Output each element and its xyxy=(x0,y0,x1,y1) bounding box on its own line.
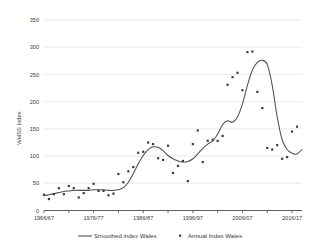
x-axis-tick-label: 2006/07 xyxy=(232,215,252,221)
data-point-marker xyxy=(286,156,288,158)
data-point-marker xyxy=(147,141,149,143)
data-point-marker xyxy=(167,145,169,147)
data-point-marker xyxy=(192,143,194,145)
data-point-marker xyxy=(256,91,258,93)
y-axis-tick-label: 150 xyxy=(30,126,39,132)
data-point-marker xyxy=(142,151,144,153)
data-point-marker xyxy=(48,198,50,200)
data-point-marker xyxy=(222,135,224,137)
x-axis-tick-label: 2016/17 xyxy=(282,215,302,221)
line-chart: 050100150200250300350 WelSS Index 1966/6… xyxy=(0,0,312,249)
data-point-marker xyxy=(296,126,298,128)
x-axis-tick-label: 1976/77 xyxy=(83,215,103,221)
data-point-marker xyxy=(78,196,80,198)
data-point-marker xyxy=(241,89,243,91)
legend-dot-swatch xyxy=(179,235,181,237)
data-point-marker xyxy=(281,158,283,160)
data-point-marker xyxy=(112,193,114,195)
data-point-marker xyxy=(182,160,184,162)
data-point-marker xyxy=(246,51,248,53)
data-point-marker xyxy=(172,172,174,174)
data-point-marker xyxy=(132,166,134,168)
data-point-marker xyxy=(187,180,189,182)
x-axis-tick-label: 1966/67 xyxy=(34,215,54,221)
data-point-marker xyxy=(117,173,119,175)
data-point-marker xyxy=(127,170,129,172)
data-point-marker xyxy=(207,140,209,142)
y-axis-tick-label: 0 xyxy=(36,208,39,214)
data-point-marker xyxy=(102,190,104,192)
data-point-marker xyxy=(276,144,278,146)
data-point-marker xyxy=(202,161,204,163)
y-axis-tick-label: 250 xyxy=(30,72,39,78)
data-point-marker xyxy=(212,139,214,141)
data-point-marker xyxy=(58,187,60,189)
y-axis-tick-label: 50 xyxy=(33,180,39,186)
data-point-marker xyxy=(261,107,263,109)
x-axis-tick-label: 1986/87 xyxy=(133,215,153,221)
data-point-marker xyxy=(88,187,90,189)
chart-container: 050100150200250300350 WelSS Index 1966/6… xyxy=(0,0,312,249)
data-point-marker xyxy=(226,84,228,86)
data-point-marker xyxy=(251,50,253,52)
legend-label-smoothed-index-wales: Smoothed index Wales xyxy=(94,232,156,239)
data-point-marker xyxy=(271,148,273,150)
data-point-marker xyxy=(107,194,109,196)
data-point-marker xyxy=(217,140,219,142)
data-point-marker xyxy=(236,72,238,74)
data-point-marker xyxy=(122,181,124,183)
data-point-marker xyxy=(97,190,99,192)
chart-background xyxy=(0,0,312,249)
data-point-marker xyxy=(83,192,85,194)
legend-label-annual-index-wales: Annual Index Wales xyxy=(188,232,242,239)
y-axis-tick-label: 300 xyxy=(30,44,39,50)
data-point-marker xyxy=(73,187,75,189)
y-axis-tick-label: 350 xyxy=(30,17,39,23)
data-point-marker xyxy=(152,143,154,145)
data-point-marker xyxy=(157,157,159,159)
data-point-marker xyxy=(162,159,164,161)
x-axis-tick-label: 1996/97 xyxy=(183,215,203,221)
data-point-marker xyxy=(197,129,199,131)
data-point-marker xyxy=(266,147,268,149)
data-point-marker xyxy=(68,185,70,187)
y-axis-title: WelSS Index xyxy=(16,111,22,145)
data-point-marker xyxy=(43,194,45,196)
data-point-marker xyxy=(231,76,233,78)
data-point-marker xyxy=(93,183,95,185)
data-point-marker xyxy=(63,193,65,195)
data-point-marker xyxy=(177,165,179,167)
data-point-marker xyxy=(137,152,139,154)
data-point-marker xyxy=(53,193,55,195)
data-point-marker xyxy=(291,130,293,132)
y-axis-tick-label: 100 xyxy=(30,153,39,159)
y-axis-tick-label: 200 xyxy=(30,99,39,105)
